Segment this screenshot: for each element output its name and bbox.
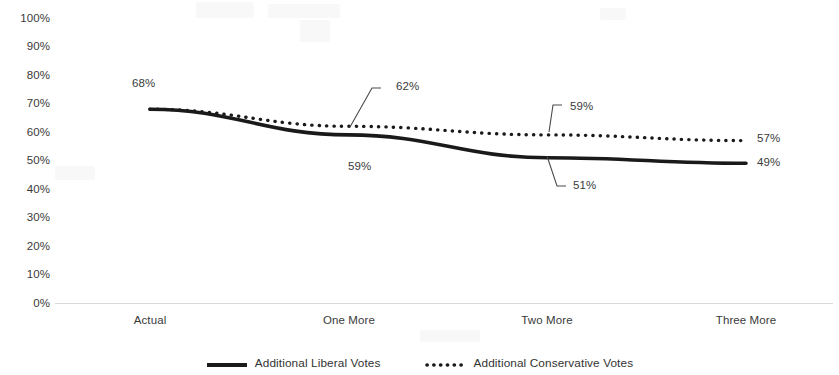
legend-entry[interactable]: Additional Conservative Votes [425,356,634,370]
data-point-label: 51% [573,179,596,192]
legend-label: Additional Conservative Votes [474,356,634,370]
data-point-label: 68% [132,77,155,90]
data-point-label: 62% [396,80,419,93]
data-point-label: 59% [348,160,371,173]
x-axis-tick-label: Two More [521,313,572,327]
data-point-label: 59% [570,100,593,113]
chart-legend: Additional Liberal VotesAdditional Conse… [0,352,839,374]
data-point-label: 57% [757,132,780,145]
data-point-label: 49% [757,156,780,169]
series-line-additional-conservative-votes [150,109,746,140]
x-axis-tick-label: One More [323,313,375,327]
legend-solid-line-icon [206,357,248,369]
legend-dotted-line-icon [425,357,467,369]
legend-entry[interactable]: Additional Liberal Votes [206,356,381,370]
x-axis-tick-label: Actual [134,313,167,327]
chart-container: 100%90%80%70%60%50%40%30%20%10%0% 68%62%… [0,0,839,375]
leader-line-59-percent [549,105,562,132]
x-axis: ActualOne MoreTwo MoreThree More [0,313,839,333]
leader-line-51-percent [547,156,566,186]
leader-line-62-percent [350,88,381,127]
x-axis-tick-label: Three More [716,313,776,327]
legend-label: Additional Liberal Votes [255,356,381,370]
